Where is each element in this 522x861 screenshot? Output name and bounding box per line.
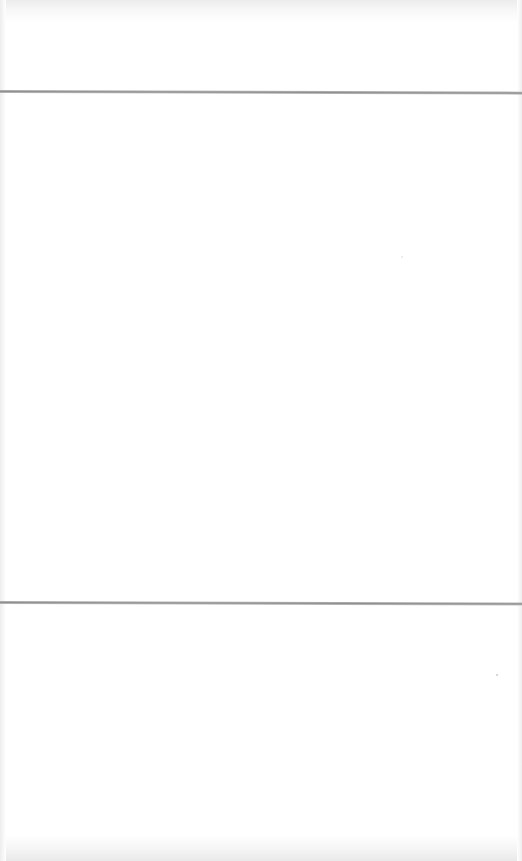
scan-speck [496, 674, 498, 676]
header-region [0, 0, 522, 90]
body-region [0, 94, 522, 600]
scan-speck [401, 256, 403, 258]
scanned-page [0, 0, 522, 861]
footer-region [0, 605, 522, 861]
